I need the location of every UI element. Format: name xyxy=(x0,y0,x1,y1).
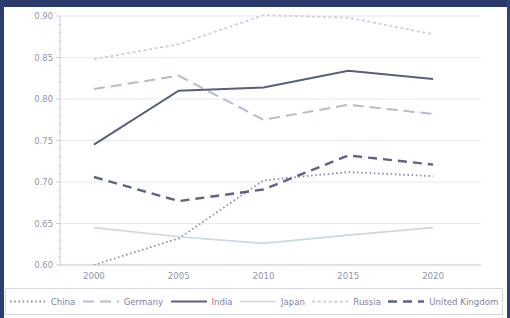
top-accent-bar xyxy=(0,0,510,7)
legend-label-india: India xyxy=(212,297,233,307)
svg-text:2015: 2015 xyxy=(337,271,359,281)
legend-swatch-germany xyxy=(83,296,119,307)
legend-swatch-russia xyxy=(312,296,348,307)
chart-figure: Gini coefficient of wewalth 0.600.650.70… xyxy=(0,7,510,318)
legend-item-japan[interactable]: Japan xyxy=(239,296,306,307)
legend-swatch-india xyxy=(171,296,207,307)
svg-text:0.65: 0.65 xyxy=(34,219,53,229)
legend-swatch-japan xyxy=(240,296,276,307)
legend-swatch-united-kingdom xyxy=(388,296,424,307)
svg-text:2005: 2005 xyxy=(168,271,190,281)
legend-item-germany[interactable]: Germany xyxy=(82,296,165,307)
legend-label-united-kingdom: United Kingdom xyxy=(429,297,498,307)
svg-text:2020: 2020 xyxy=(422,271,444,281)
svg-text:0.85: 0.85 xyxy=(34,53,53,63)
svg-text:2010: 2010 xyxy=(253,271,275,281)
legend-item-india[interactable]: India xyxy=(170,296,234,307)
svg-text:0.60: 0.60 xyxy=(34,260,53,270)
svg-text:0.70: 0.70 xyxy=(34,177,53,187)
legend-item-russia[interactable]: Russia xyxy=(311,296,382,307)
plot-area: Gini coefficient of wewalth 0.600.650.70… xyxy=(0,7,510,285)
chart-legend: China Germany India Japan Russia United … xyxy=(5,288,503,315)
svg-text:0.75: 0.75 xyxy=(34,136,53,146)
legend-item-china[interactable]: China xyxy=(9,296,77,307)
legend-item-united-kingdom[interactable]: United Kingdom xyxy=(387,296,499,307)
legend-label-japan: Japan xyxy=(281,297,305,307)
svg-text:2000: 2000 xyxy=(83,271,105,281)
legend-label-china: China xyxy=(51,297,76,307)
line-chart-svg: 0.600.650.700.750.800.850.90200020052010… xyxy=(0,7,510,285)
legend-label-germany: Germany xyxy=(124,297,164,307)
legend-label-russia: Russia xyxy=(353,297,381,307)
chart-page: Gini coefficient of wewalth 0.600.650.70… xyxy=(0,0,510,318)
svg-text:0.80: 0.80 xyxy=(34,94,53,104)
svg-text:0.90: 0.90 xyxy=(34,11,53,21)
legend-swatch-china xyxy=(10,296,46,307)
